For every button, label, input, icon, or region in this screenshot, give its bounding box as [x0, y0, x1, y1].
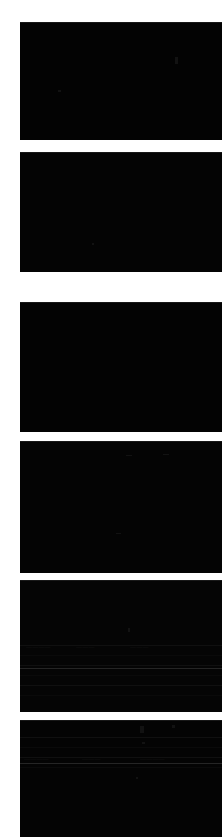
panel-row[interactable] — [20, 748, 222, 758]
faint-text: ——— — [130, 644, 149, 651]
panel-gap-4 — [0, 573, 222, 580]
faint-text: ——— — [82, 756, 101, 763]
panel-gap-2 — [0, 272, 222, 302]
panel-row[interactable] — [20, 676, 222, 686]
faint-mark — [172, 725, 175, 728]
faint-mark — [136, 777, 138, 779]
content-panel-4[interactable] — [20, 441, 222, 573]
faint-mark — [116, 533, 121, 534]
faint-mark — [128, 628, 130, 632]
panel-row[interactable] — [20, 656, 222, 666]
panel-row[interactable] — [20, 738, 222, 748]
content-panel-1[interactable] — [20, 22, 222, 140]
faint-text: ———— — [26, 644, 51, 651]
panel-gap-1 — [0, 140, 222, 152]
top-margin — [0, 0, 222, 22]
faint-mark — [140, 726, 144, 733]
faint-mark — [163, 454, 169, 455]
faint-mark — [126, 455, 132, 456]
panel-row[interactable] — [20, 728, 222, 738]
panel-gap-3 — [0, 432, 222, 441]
faint-text: ———— — [24, 756, 49, 763]
faint-mark — [58, 90, 61, 92]
panel-divider — [20, 763, 222, 764]
content-panel-2[interactable] — [20, 152, 222, 272]
faint-mark — [175, 57, 178, 64]
panel-strip: ————————————————————— — [0, 0, 222, 837]
content-panel-5[interactable]: —————————— — [20, 580, 222, 712]
faint-text: ———— — [140, 756, 165, 763]
content-panel-6[interactable]: ——————————— — [20, 720, 222, 837]
content-panel-3[interactable] — [20, 302, 222, 432]
faint-mark — [92, 243, 94, 245]
panel-row[interactable] — [20, 686, 222, 696]
panel-row-group — [20, 728, 222, 768]
faint-mark — [142, 742, 145, 744]
panel-divider — [20, 668, 222, 669]
panel-gap-5 — [0, 712, 222, 720]
faint-text: ——— — [76, 644, 95, 651]
